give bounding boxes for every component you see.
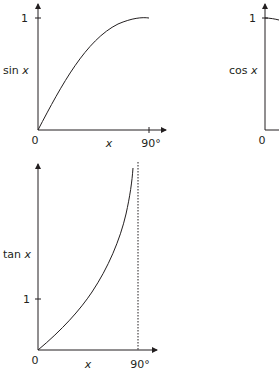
tan-curve bbox=[38, 168, 133, 350]
sin-y-tick-label: 1 bbox=[21, 12, 28, 25]
cos-graph: 1 cos x 0 bbox=[229, 4, 279, 147]
sin-graph: 1 sin x 0 x 90° bbox=[3, 4, 166, 150]
tan-graph: 1 tan x 0 x 90° bbox=[3, 162, 157, 371]
tan-origin-label: 0 bbox=[32, 354, 39, 367]
cos-y-tick-label: 1 bbox=[249, 12, 256, 25]
sin-x-tick-label: 90° bbox=[141, 137, 161, 150]
sin-origin-label: 0 bbox=[32, 134, 39, 147]
sin-y-label: sin x bbox=[3, 64, 29, 77]
tan-x-tick-label: 90° bbox=[130, 358, 150, 371]
sin-x-label: x bbox=[105, 137, 113, 150]
cos-y-label: cos x bbox=[229, 64, 258, 77]
tan-y-tick-label: 1 bbox=[23, 293, 30, 306]
trig-graphs-diagram: 1 sin x 0 x 90° 1 cos x 0 1 tan x 0 x 90… bbox=[0, 0, 279, 372]
tan-y-label: tan x bbox=[3, 248, 32, 261]
cos-curve bbox=[265, 18, 279, 20]
cos-origin-label: 0 bbox=[259, 134, 266, 147]
sin-curve bbox=[38, 18, 149, 130]
tan-x-label: x bbox=[84, 358, 92, 371]
